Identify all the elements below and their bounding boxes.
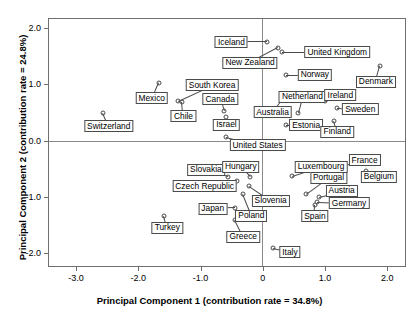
- point-label: Czech Republic: [172, 180, 237, 192]
- point-label: Austria: [326, 185, 358, 197]
- x-tick-label: -3.0: [68, 273, 84, 283]
- point-label: Turkey: [152, 222, 183, 234]
- point-label: South Korea: [186, 79, 239, 91]
- point-label: Belgium: [361, 171, 397, 183]
- x-axis-label: Principal Component 1 (contribution rate…: [0, 295, 419, 306]
- point-label: Italy: [279, 246, 300, 258]
- y-axis-label: Principal Component 2 (contribution rate…: [17, 13, 28, 283]
- point-label: Germany: [329, 197, 369, 209]
- x-tick-label: 0: [260, 273, 265, 283]
- y-tick: [44, 197, 48, 198]
- point-label: Chile: [171, 110, 196, 122]
- point-label: Portugal: [310, 172, 347, 184]
- point-label: Estonia: [289, 119, 323, 131]
- point-label: Hungary: [222, 161, 260, 173]
- point-label: Poland: [235, 210, 267, 222]
- point-label: Iceland: [215, 36, 248, 48]
- x-tick: [387, 267, 388, 271]
- x-tick-label: 1.0: [319, 273, 332, 283]
- point-label: Norway: [298, 69, 332, 81]
- point-label: Finland: [321, 126, 354, 138]
- point-label: Slovakia: [187, 164, 225, 176]
- y-tick: [44, 84, 48, 85]
- x-tick-label: -1.0: [193, 273, 209, 283]
- y-tick: [44, 28, 48, 29]
- point-label: Slovenia: [252, 195, 290, 207]
- x-tick-label: -2.0: [131, 273, 147, 283]
- point-label: Spain: [301, 210, 328, 222]
- x-tick: [263, 267, 264, 271]
- x-tick: [325, 267, 326, 271]
- point-label: Greece: [227, 231, 260, 243]
- point-label: United States: [229, 139, 285, 151]
- point-label: Japan: [198, 203, 227, 215]
- x-tick: [201, 267, 202, 271]
- point-label: Netherland: [279, 91, 326, 103]
- x-tick: [76, 267, 77, 271]
- point-label: Australia: [253, 106, 292, 118]
- point-label: Ireland: [325, 89, 357, 101]
- y-tick: [44, 141, 48, 142]
- scatter-plot-figure: IcelandUnited KingdomNew ZealandNorwayDe…: [0, 0, 419, 317]
- point-label: Canada: [203, 93, 238, 105]
- x-tick: [138, 267, 139, 271]
- plot-area: IcelandUnited KingdomNew ZealandNorwayDe…: [48, 18, 406, 267]
- point-label: United Kingdom: [304, 46, 370, 58]
- point-label: France: [349, 154, 381, 166]
- y-tick: [44, 253, 48, 254]
- point-label: New Zealand: [222, 57, 277, 69]
- point-label: Israel: [213, 119, 239, 131]
- zero-horizontal-line: [49, 141, 405, 142]
- x-tick-label: 2.0: [381, 273, 394, 283]
- point-label: Sweden: [342, 103, 378, 115]
- point-label: Switzerland: [84, 120, 133, 132]
- point-label: Mexico: [135, 92, 168, 104]
- point-label: Denmark: [356, 76, 396, 88]
